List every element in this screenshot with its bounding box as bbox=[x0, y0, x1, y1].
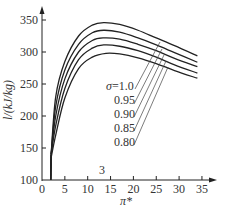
y-axis bbox=[40, 6, 45, 181]
series-label-1.0: σ=1.0 bbox=[106, 79, 134, 93]
series-label-0.95: 0.95 bbox=[114, 93, 135, 107]
y-tick-label: 350 bbox=[20, 13, 38, 27]
y-axis-arrow-icon bbox=[40, 6, 45, 14]
chart-canvas: 100150200250300350 05101520253035 σ=1.0 … bbox=[0, 0, 228, 210]
series-label-0.80: 0.80 bbox=[114, 135, 135, 149]
x-ticks bbox=[65, 176, 202, 180]
x-axis-title: π* bbox=[120, 194, 132, 208]
y-tick-label: 200 bbox=[20, 109, 38, 123]
x-tick-label: 5 bbox=[62, 182, 68, 196]
x-tick-label: 30 bbox=[173, 182, 185, 196]
y-tick-label: 150 bbox=[20, 141, 38, 155]
x-tick-label: 10 bbox=[82, 182, 94, 196]
x-tick-label: 25 bbox=[150, 182, 162, 196]
series-label-0.90: 0.90 bbox=[114, 107, 135, 121]
annotation-3: 3 bbox=[99, 163, 105, 177]
x-tick-label: 15 bbox=[105, 182, 117, 196]
y-tick-label: 250 bbox=[20, 77, 38, 91]
x-tick-label: 0 bbox=[39, 182, 45, 196]
y-axis-title: l/(kJ/kg) bbox=[1, 80, 15, 120]
x-tick-label: 35 bbox=[196, 182, 208, 196]
x-axis-arrow-icon bbox=[209, 178, 217, 183]
y-tick-label: 300 bbox=[20, 45, 38, 59]
y-tick-label: 100 bbox=[20, 173, 38, 187]
series-label-0.85: 0.85 bbox=[114, 121, 135, 135]
y-ticks bbox=[42, 20, 46, 148]
y-tick-labels: 100150200250300350 bbox=[20, 13, 38, 187]
